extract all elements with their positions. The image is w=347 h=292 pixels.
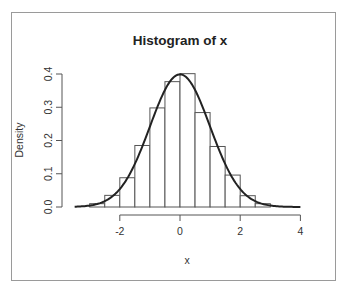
chart-title: Histogram of x: [133, 33, 228, 48]
histogram-bar: [195, 113, 210, 207]
histogram-bar: [180, 74, 195, 207]
x-axis: -2024: [115, 215, 303, 237]
y-tick-label: 0.3: [42, 100, 54, 115]
histogram-chart: Histogram of x -2024 0.00.10.20.30.4 x D…: [0, 0, 347, 292]
histogram-bar: [120, 178, 135, 207]
x-tick-label: 2: [237, 225, 243, 237]
x-tick-label: -2: [115, 225, 124, 237]
y-axis: 0.00.10.20.30.4: [42, 67, 62, 215]
x-axis-label: x: [184, 254, 190, 266]
y-tick-label: 0.4: [42, 67, 54, 82]
histogram-bars: [90, 74, 271, 207]
y-tick-label: 0.1: [42, 166, 54, 181]
y-tick-label: 0.2: [42, 133, 54, 148]
x-tick-label: 4: [297, 225, 303, 237]
histogram-bar: [165, 82, 180, 207]
x-tick-label: 0: [177, 225, 183, 237]
y-tick-label: 0.0: [42, 200, 54, 215]
histogram-bar: [210, 146, 225, 207]
histogram-bar: [135, 145, 150, 207]
y-axis-label: Density: [13, 122, 25, 158]
